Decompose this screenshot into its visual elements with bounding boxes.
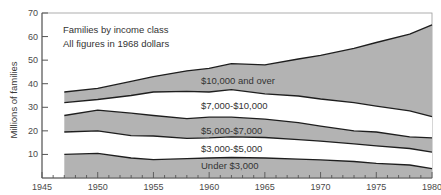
x-tick-label: 1970 <box>311 182 331 192</box>
y-tick-label: 70 <box>28 8 38 18</box>
band-label-5000-7000: $5,000-$7,000 <box>201 125 262 136</box>
y-tick-label: 50 <box>28 55 38 65</box>
x-tick-label: 1960 <box>199 182 219 192</box>
chart-title: Families by income class <box>63 24 169 35</box>
x-tick-label: 1950 <box>88 182 108 192</box>
x-tick-label: 1955 <box>143 182 163 192</box>
y-axis-title: Millions of families <box>8 61 19 138</box>
x-tick-label: 1980 <box>422 182 441 192</box>
band-label-under-3000: Under $3,000 <box>201 160 259 171</box>
x-tick-label: 1965 <box>255 182 275 192</box>
chart: 10203040506070 1945195019551960196519701… <box>0 0 441 195</box>
band-label-10000-over: $10,000 and over <box>201 75 275 86</box>
y-tick-label: 60 <box>28 32 38 42</box>
band-label-3000-5000: $3,000-$5,000 <box>201 143 262 154</box>
x-tick-label: 1975 <box>366 182 386 192</box>
y-tick-label: 40 <box>28 79 38 89</box>
y-tick-label: 30 <box>28 102 38 112</box>
x-tick-label: 1945 <box>32 182 52 192</box>
y-tick-label: 10 <box>28 149 38 159</box>
chart-subtitle: All figures in 1968 dollars <box>63 38 169 49</box>
y-tick-label: 20 <box>28 126 38 136</box>
band-label-7000-10000: $7,000-$10,000 <box>201 100 268 111</box>
